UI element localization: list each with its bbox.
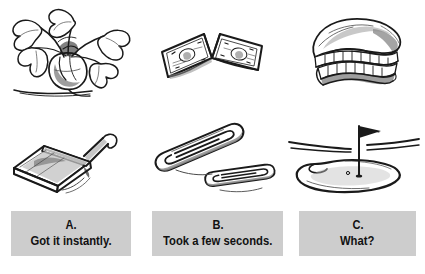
sketch-dustpan (0, 104, 140, 204)
answer-option-c[interactable]: C. What? (299, 211, 416, 256)
option-b-letter: B. (212, 219, 223, 233)
option-a-text: Got it instantly. (30, 234, 111, 249)
dentures-icon (285, 2, 425, 102)
sketch-dentures (285, 2, 425, 102)
golf-green-icon (285, 104, 425, 204)
sketch-beet-plant (0, 2, 140, 102)
beet-plant-icon (0, 2, 140, 102)
option-a-letter: A. (65, 219, 76, 233)
sketch-dollar-bills (142, 2, 282, 102)
dustpan-icon (0, 104, 140, 204)
answer-option-b[interactable]: B. Took a few seconds. (152, 211, 283, 256)
option-b-text: Took a few seconds. (163, 234, 272, 249)
option-c-text: What? (340, 234, 374, 249)
sketch-paper-clips (142, 104, 282, 204)
sketch-grid (0, 0, 425, 205)
answer-option-a[interactable]: A. Got it instantly. (11, 211, 131, 256)
paper-clips-icon (142, 104, 282, 204)
option-c-letter: C. (352, 219, 363, 233)
answer-options-row: A. Got it instantly. B. Took a few secon… (0, 211, 425, 259)
sketch-golf-green (285, 104, 425, 204)
dollar-bills-icon (142, 2, 282, 102)
